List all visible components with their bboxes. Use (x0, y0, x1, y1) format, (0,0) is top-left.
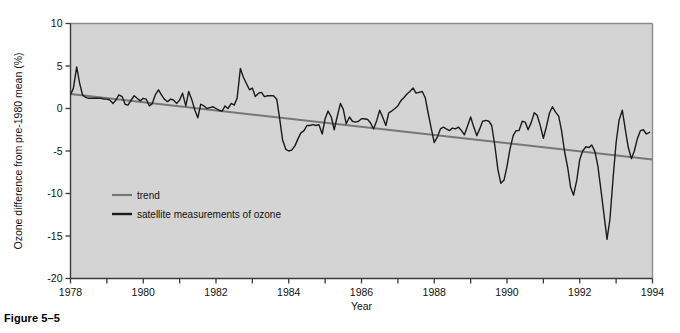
y-tick-label: 0 (57, 102, 63, 114)
x-tick-label: 1982 (204, 286, 228, 298)
x-tick-label: 1978 (59, 286, 83, 298)
y-tick-label: -5 (53, 145, 62, 157)
x-tick-label: 1984 (277, 286, 301, 298)
legend-label-trend: trend (137, 190, 160, 201)
legend-label-satellite-measurements-of-ozone: satellite measurements of ozone (137, 209, 281, 220)
y-tick-label: 10 (51, 17, 63, 29)
plot-background (71, 24, 653, 279)
y-tick-label: -10 (47, 187, 62, 199)
x-tick-label: 1980 (132, 286, 156, 298)
y-tick-label: -20 (47, 272, 62, 284)
y-axis-title: Ozone difference from pre-1980 mean (%) (12, 52, 24, 249)
x-axis-title: Year (351, 300, 373, 312)
x-tick-label: 1992 (568, 286, 592, 298)
x-tick-label: 1988 (423, 286, 447, 298)
y-tick-label: -15 (47, 230, 62, 242)
ozone-trend-chart: 1050-5-10-15-201978198019821984198619881… (0, 0, 680, 333)
y-tick-label: 5 (57, 60, 63, 72)
x-tick-label: 1994 (641, 286, 665, 298)
figure-caption: Figure 5–5 (4, 312, 60, 324)
figure-container: 1050-5-10-15-201978198019821984198619881… (0, 0, 680, 333)
x-tick-label: 1986 (350, 286, 374, 298)
x-tick-label: 1990 (495, 286, 519, 298)
